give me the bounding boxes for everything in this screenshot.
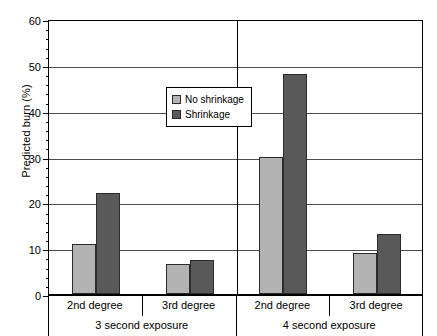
x-axis-major-separator: [422, 295, 423, 336]
x-axis-exposure-label: 4 second exposure: [236, 319, 424, 331]
bar: [72, 244, 96, 294]
legend-label: No shrinkage: [185, 94, 244, 105]
x-axis-minor-separator: [329, 295, 330, 316]
bar-chart: Predicted burn (%) 0102030405060 No shri…: [0, 0, 437, 336]
x-axis: 2nd degree3rd degree2nd degree3rd degree…: [48, 295, 423, 336]
legend-label: Shrinkage: [185, 109, 230, 120]
x-axis-major-separator: [236, 295, 237, 336]
x-axis-degree-label: 3rd degree: [329, 299, 423, 311]
y-tick-label: 60: [29, 15, 41, 27]
bars-layer: [49, 21, 422, 294]
group-separator: [237, 21, 238, 294]
y-tick-label: 0: [35, 290, 41, 302]
y-axis-title: Predicted burn (%): [20, 61, 32, 201]
x-axis-degree-label: 3rd degree: [142, 299, 236, 311]
bar: [377, 234, 401, 294]
legend-item-shrinkage: Shrinkage: [172, 107, 244, 122]
legend-swatch-icon: [172, 110, 181, 119]
bar: [96, 193, 120, 294]
bar: [190, 260, 214, 294]
legend-swatch-icon: [172, 95, 181, 104]
x-axis-exposure-label: 3 second exposure: [48, 319, 236, 331]
legend: No shrinkage Shrinkage: [166, 87, 252, 127]
bar: [259, 157, 283, 295]
x-axis-degree-label: 2nd degree: [48, 299, 142, 311]
x-axis-minor-separator: [142, 295, 143, 316]
y-tick-label: 30: [29, 153, 41, 165]
y-tick-label: 50: [29, 61, 41, 73]
y-tick-label: 20: [29, 198, 41, 210]
y-tick-label: 10: [29, 244, 41, 256]
bar: [353, 253, 377, 294]
x-axis-major-separator: [48, 295, 49, 336]
legend-item-no-shrinkage: No shrinkage: [172, 92, 244, 107]
bar: [283, 74, 307, 294]
bar: [166, 264, 190, 294]
y-tick-label: 40: [29, 107, 41, 119]
plot-area: 0102030405060 No shrinkage Shrinkage: [48, 20, 423, 295]
x-axis-degree-label: 2nd degree: [236, 299, 330, 311]
